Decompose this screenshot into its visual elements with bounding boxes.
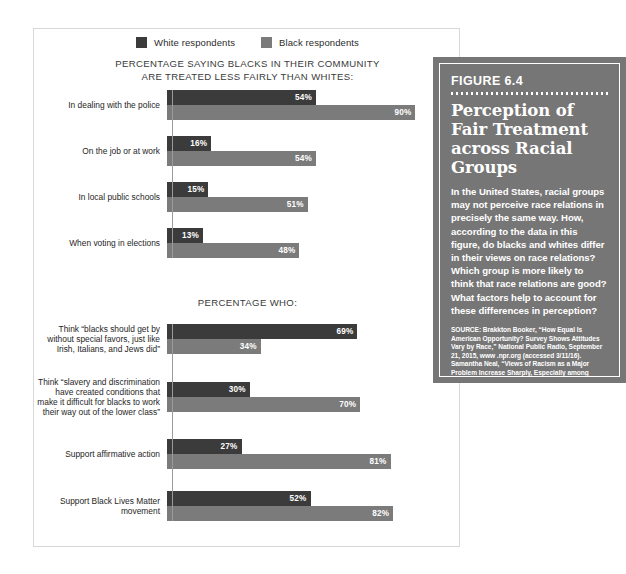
bar-value-label: 81% xyxy=(370,457,387,466)
bar-row: 13% xyxy=(167,228,461,243)
bar-pair: 30%70% xyxy=(166,382,461,412)
bar-pair: 52%82% xyxy=(166,491,461,521)
category-label: In local public schools xyxy=(34,192,166,202)
bar-black: 81% xyxy=(167,454,391,469)
bar-group: When voting in elections13%48% xyxy=(34,228,461,258)
bar-white: 69% xyxy=(167,324,357,339)
category-label: On the job or at work xyxy=(34,146,166,156)
bar-group: Support affirmative action27%81% xyxy=(34,439,461,469)
bar-row: 34% xyxy=(167,339,461,354)
bar-black: 34% xyxy=(167,339,261,354)
figure-source-text: Brakkton Booker, “How Equal Is American … xyxy=(451,326,602,377)
bar-group: Think “blacks should get by without spec… xyxy=(34,324,461,355)
plot-section-2: Think “blacks should get by without spec… xyxy=(34,324,461,521)
bar-row: 81% xyxy=(167,454,461,469)
bar-value-label: 82% xyxy=(372,509,389,518)
bar-white: 52% xyxy=(167,491,311,506)
bar-pair: 27%81% xyxy=(166,439,461,469)
legend-swatch-icon-white xyxy=(136,37,147,48)
bar-black: 82% xyxy=(167,506,393,521)
bar-white: 54% xyxy=(167,90,316,105)
bar-pair: 15%51% xyxy=(166,182,461,212)
chart-legend: White respondents Black respondents xyxy=(34,37,461,48)
bar-black: 54% xyxy=(167,151,316,166)
figure-source-label: SOURCE: xyxy=(451,326,481,333)
legend-label-black: Black respondents xyxy=(279,37,359,48)
figure-title: Perception of Fair Treatment across Raci… xyxy=(451,101,608,177)
legend-swatch-icon-black xyxy=(261,37,272,48)
bar-value-label: 30% xyxy=(229,385,246,394)
category-label: In dealing with the police xyxy=(34,100,166,110)
figure-number: FIGURE 6.4 xyxy=(451,74,608,88)
bar-pair: 69%34% xyxy=(166,324,461,354)
section-heading-2-line-1: PERCENTAGE WHO: xyxy=(34,297,461,310)
section-heading-1-line-1: PERCENTAGE SAYING BLACKS IN THEIR COMMUN… xyxy=(34,58,461,71)
bar-pair: 16%54% xyxy=(166,136,461,166)
bar-pair: 13%48% xyxy=(166,228,461,258)
category-label: Support Black Lives Matter movement xyxy=(34,496,166,516)
bar-value-label: 34% xyxy=(240,342,257,351)
figure-source-citation: SOURCE: Brakkton Booker, “How Equal Is A… xyxy=(451,326,608,377)
bar-pair: 54%90% xyxy=(166,90,461,120)
figure-callout-box: FIGURE 6.4 Perception of Fair Treatment … xyxy=(433,57,626,383)
bar-value-label: 90% xyxy=(394,108,411,117)
bar-value-label: 54% xyxy=(295,93,312,102)
dotted-divider xyxy=(451,92,608,95)
bar-row: 69% xyxy=(167,324,461,339)
section-heading-2: PERCENTAGE WHO: xyxy=(34,297,461,310)
bar-row: 82% xyxy=(167,506,461,521)
bar-row: 48% xyxy=(167,243,461,258)
bar-row: 16% xyxy=(167,136,461,151)
bar-row: 90% xyxy=(167,105,461,120)
section-heading-1-line-2: ARE TREATED LESS FAIRLY THAN WHITES: xyxy=(34,71,461,84)
bar-value-label: 52% xyxy=(290,494,307,503)
bar-value-label: 54% xyxy=(295,154,312,163)
bar-black: 48% xyxy=(167,243,299,258)
category-label: When voting in elections xyxy=(34,238,166,248)
plot-section-1: In dealing with the police54%90%On the j… xyxy=(34,90,461,258)
bar-value-label: 15% xyxy=(187,185,204,194)
bar-row: 54% xyxy=(167,90,461,105)
bar-group: In local public schools15%51% xyxy=(34,182,461,212)
legend-item-black-respondents: Black respondents xyxy=(261,37,359,48)
section-heading-1: PERCENTAGE SAYING BLACKS IN THEIR COMMUN… xyxy=(34,58,461,83)
legend-label-white: White respondents xyxy=(154,37,235,48)
bar-value-label: 16% xyxy=(190,139,207,148)
bar-group: Support Black Lives Matter movement52%82… xyxy=(34,491,461,521)
bar-white: 27% xyxy=(167,439,242,454)
bar-black: 70% xyxy=(167,397,360,412)
bar-row: 54% xyxy=(167,151,461,166)
bar-white: 30% xyxy=(167,382,250,397)
bar-row: 51% xyxy=(167,197,461,212)
bar-value-label: 69% xyxy=(336,327,353,336)
bar-row: 15% xyxy=(167,182,461,197)
legend-item-white-respondents: White respondents xyxy=(136,37,235,48)
bar-value-label: 27% xyxy=(221,442,238,451)
bar-row: 27% xyxy=(167,439,461,454)
category-label: Think “blacks should get by without spec… xyxy=(34,324,166,355)
bar-row: 30% xyxy=(167,382,461,397)
bar-group: In dealing with the police54%90% xyxy=(34,90,461,120)
bar-black: 51% xyxy=(167,197,308,212)
figure-callout-inner: FIGURE 6.4 Perception of Fair Treatment … xyxy=(439,63,620,377)
bar-value-label: 13% xyxy=(182,231,199,240)
bar-row: 70% xyxy=(167,397,461,412)
bar-white: 15% xyxy=(167,182,208,197)
category-label: Think “slavery and discrimination have c… xyxy=(34,377,166,418)
bar-group: Think “slavery and discrimination have c… xyxy=(34,377,461,418)
bar-value-label: 70% xyxy=(339,400,356,409)
bar-group: On the job or at work16%54% xyxy=(34,136,461,166)
figure-body-text: In the United States, racial groups may … xyxy=(451,185,608,317)
axis-baseline xyxy=(172,324,173,521)
category-label: Support affirmative action xyxy=(34,449,166,459)
bar-black: 90% xyxy=(167,105,415,120)
axis-baseline xyxy=(172,90,173,258)
bar-white: 16% xyxy=(167,136,211,151)
bar-value-label: 51% xyxy=(287,200,304,209)
bar-row: 52% xyxy=(167,491,461,506)
chart-frame: White respondents Black respondents PERC… xyxy=(33,28,460,547)
bar-value-label: 48% xyxy=(278,246,295,255)
